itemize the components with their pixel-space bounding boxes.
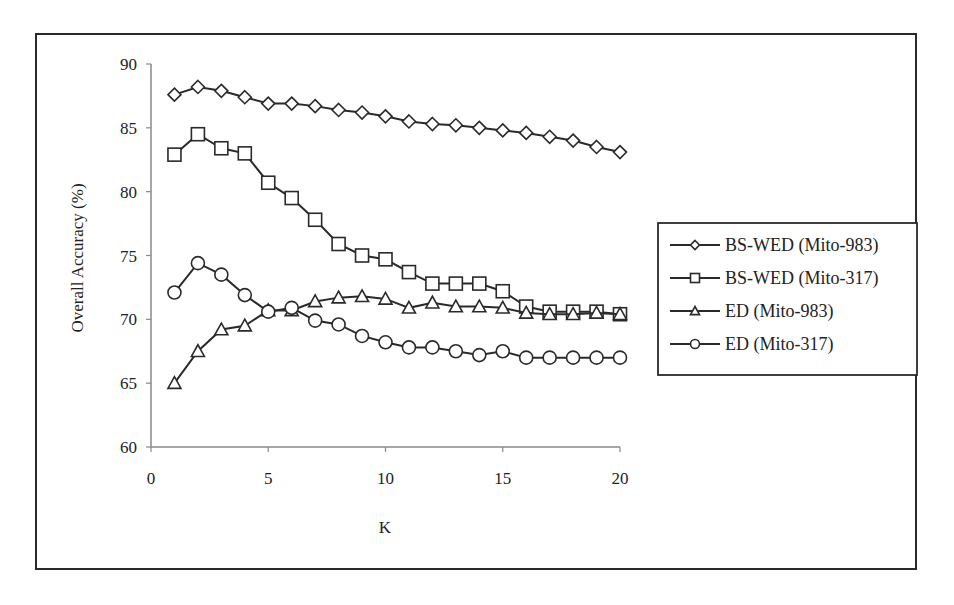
diamond-marker-icon xyxy=(473,121,486,134)
diamond-marker-icon xyxy=(191,80,204,93)
square-marker-icon xyxy=(449,277,462,290)
circle-marker-icon xyxy=(426,341,439,354)
diamond-marker-icon xyxy=(356,106,369,119)
triangle-marker-icon xyxy=(238,319,251,331)
square-marker-icon xyxy=(191,128,204,141)
square-marker-icon xyxy=(356,249,369,262)
circle-marker-icon xyxy=(215,268,228,281)
y-tick-label: 90 xyxy=(120,55,137,74)
series-1 xyxy=(168,128,627,321)
y-tick-label: 70 xyxy=(120,310,137,329)
y-tick-label: 80 xyxy=(120,183,137,202)
diamond-marker-icon xyxy=(614,146,627,159)
legend-label: BS-WED (Mito-317) xyxy=(725,268,878,289)
circle-marker-icon xyxy=(168,286,181,299)
square-marker-icon xyxy=(309,213,322,226)
line-chart: 6065707580859005101520 BS-WED (Mito-983)… xyxy=(0,0,954,605)
diamond-marker-icon xyxy=(590,140,603,153)
square-marker-icon xyxy=(426,277,439,290)
diamond-marker-icon xyxy=(520,126,533,139)
circle-marker-icon xyxy=(379,336,392,349)
circle-marker-icon xyxy=(543,351,556,364)
circle-marker-icon xyxy=(590,351,603,364)
circle-marker-icon xyxy=(473,349,486,362)
circle-marker-icon xyxy=(262,305,275,318)
circle-marker-icon xyxy=(238,289,251,302)
circle-marker-icon xyxy=(691,340,700,349)
x-tick-label: 0 xyxy=(147,469,156,488)
square-marker-icon xyxy=(691,274,700,283)
square-marker-icon xyxy=(402,266,415,279)
diamond-marker-icon xyxy=(379,110,392,123)
diamond-marker-icon xyxy=(567,134,580,147)
circle-marker-icon xyxy=(191,257,204,270)
diamond-marker-icon xyxy=(309,100,322,113)
square-marker-icon xyxy=(379,253,392,266)
x-tick-label: 10 xyxy=(377,469,394,488)
circle-marker-icon xyxy=(309,314,322,327)
diamond-marker-icon xyxy=(332,103,345,116)
legend-label: BS-WED (Mito-983) xyxy=(725,235,878,256)
x-tick-label: 5 xyxy=(264,469,273,488)
diamond-marker-icon xyxy=(496,124,509,137)
circle-marker-icon xyxy=(496,345,509,358)
circle-marker-icon xyxy=(402,341,415,354)
circle-marker-icon xyxy=(614,351,627,364)
y-tick-label: 65 xyxy=(120,374,137,393)
series-2 xyxy=(168,290,627,389)
square-marker-icon xyxy=(332,238,345,251)
x-axis-title: K xyxy=(379,518,392,537)
data-series xyxy=(168,80,627,388)
square-marker-icon xyxy=(496,285,509,298)
circle-marker-icon xyxy=(356,329,369,342)
axes: 6065707580859005101520 xyxy=(120,55,629,488)
square-marker-icon xyxy=(262,176,275,189)
legend-label: ED (Mito-317) xyxy=(725,334,833,355)
triangle-marker-icon xyxy=(426,296,439,308)
circle-marker-icon xyxy=(520,351,533,364)
diamond-marker-icon xyxy=(449,119,462,132)
diamond-marker-icon xyxy=(215,84,228,97)
legend-label: ED (Mito-983) xyxy=(725,301,833,322)
x-tick-label: 15 xyxy=(494,469,511,488)
diamond-marker-icon xyxy=(262,97,275,110)
diamond-marker-icon xyxy=(543,130,556,143)
circle-marker-icon xyxy=(332,318,345,331)
diamond-marker-icon xyxy=(238,91,251,104)
diamond-marker-icon xyxy=(402,115,415,128)
diamond-marker-icon xyxy=(426,118,439,131)
y-tick-label: 60 xyxy=(120,438,137,457)
square-marker-icon xyxy=(285,192,298,205)
y-tick-label: 85 xyxy=(120,119,137,138)
circle-marker-icon xyxy=(567,351,580,364)
series-3 xyxy=(168,257,627,364)
legend: BS-WED (Mito-983)BS-WED (Mito-317)ED (Mi… xyxy=(658,223,917,375)
diamond-marker-icon xyxy=(285,97,298,110)
y-axis-title: Overall Accuracy (%) xyxy=(68,183,87,332)
circle-marker-icon xyxy=(449,345,462,358)
square-marker-icon xyxy=(168,148,181,161)
square-marker-icon xyxy=(215,142,228,155)
x-tick-label: 20 xyxy=(612,469,629,488)
circle-marker-icon xyxy=(285,301,298,314)
diamond-marker-icon xyxy=(168,88,181,101)
square-marker-icon xyxy=(473,277,486,290)
y-tick-label: 75 xyxy=(120,247,137,266)
square-marker-icon xyxy=(238,147,251,160)
series-0 xyxy=(168,80,627,158)
